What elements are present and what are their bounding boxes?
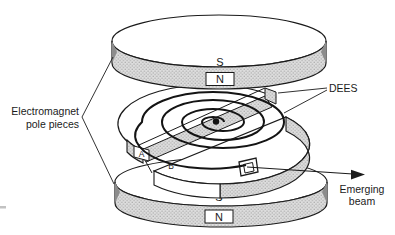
emerging-beam-label-line1: Emerging [340, 183, 385, 195]
dees-annotation: DEES [278, 82, 358, 113]
emerging-beam-label-line2: beam [349, 195, 376, 207]
bottom-pole-north-label: N [215, 211, 223, 223]
dees-leader-lines [278, 88, 327, 113]
cyclotron-diagram: S N A B S N [0, 0, 395, 235]
electromagnet-annotation: Electromagnet pole pieces [11, 57, 114, 184]
electromagnet-label-line1: Electromagnet [11, 105, 79, 117]
ion-source-dot [213, 118, 219, 124]
top-pole-north-label: N [216, 73, 224, 85]
beam-arrowhead [351, 170, 365, 180]
electromagnet-label-line2: pole pieces [26, 118, 79, 130]
scan-artifact [0, 206, 6, 209]
electromagnet-leader-lines [82, 57, 114, 184]
top-pole-piece: S N [112, 15, 326, 89]
dees-label: DEES [329, 82, 358, 94]
cyclotron-figure: S N A B S N [0, 0, 395, 235]
top-pole-south-label: S [216, 56, 223, 68]
